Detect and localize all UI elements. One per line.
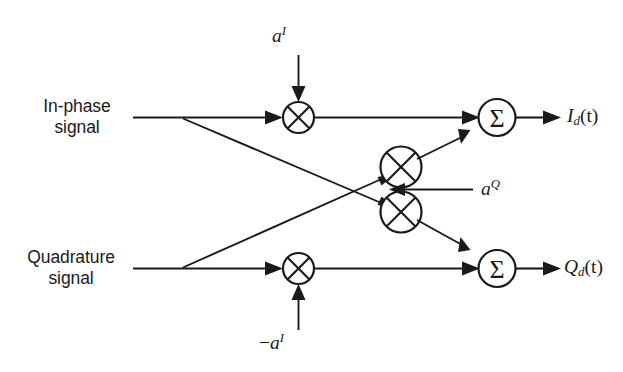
mixer-middle-upper-output-wire bbox=[417, 129, 471, 159]
in-phase-cross-branch-wire bbox=[183, 119, 396, 209]
coefficient-middle-superscript: Q bbox=[491, 177, 500, 191]
coefficient-top-base: a bbox=[272, 25, 282, 46]
mixer-bottom-left-output-wire bbox=[314, 262, 480, 276]
coefficient-bottom-base: a bbox=[270, 332, 280, 353]
output-bottom-wire bbox=[516, 262, 562, 276]
block-diagram-figure: Σ Σ In-phase signal Quadrature signal aI… bbox=[0, 0, 623, 372]
coefficient-bottom-sign: − bbox=[259, 332, 270, 353]
output-bottom-base: Q bbox=[564, 256, 578, 277]
in-phase-signal-label-line1: In-phase bbox=[23, 96, 131, 117]
quadrature-signal-label-line2: signal bbox=[10, 268, 132, 289]
coefficient-top-feed-wire bbox=[292, 55, 306, 102]
in-phase-input-wire bbox=[133, 111, 283, 125]
output-bottom-subscript: d bbox=[578, 265, 584, 279]
in-phase-signal-label: In-phase signal bbox=[23, 96, 131, 137]
mixer-top-left-output-wire bbox=[314, 111, 480, 125]
coefficient-middle-base: a bbox=[481, 178, 491, 199]
output-top-arg: (t) bbox=[580, 105, 598, 126]
quadrature-signal-label: Quadrature signal bbox=[10, 247, 132, 288]
coefficient-middle-feed-wire bbox=[389, 183, 473, 196]
diagram-canvas: Σ Σ bbox=[0, 0, 623, 372]
mixer-top-left[interactable] bbox=[283, 102, 314, 133]
mixer-middle-upper[interactable] bbox=[381, 147, 422, 188]
mixer-middle-lower-output-wire bbox=[417, 220, 471, 252]
quadrature-cross-branch-wire bbox=[183, 174, 396, 268]
coefficient-top-label: aI bbox=[272, 24, 286, 47]
quadrature-signal-label-line1: Quadrature bbox=[10, 247, 132, 268]
output-bottom-label: Qd(t) bbox=[564, 255, 603, 278]
sigma-glyph-top: Σ bbox=[489, 104, 504, 133]
summer-top[interactable]: Σ bbox=[479, 99, 516, 136]
output-top-label: Id(t) bbox=[567, 104, 598, 127]
output-bottom-arg: (t) bbox=[585, 256, 603, 277]
output-top-wire bbox=[516, 111, 562, 125]
in-phase-signal-label-line2: signal bbox=[23, 117, 131, 138]
coefficient-bottom-label: −aI bbox=[259, 331, 284, 354]
mixer-middle-lower[interactable] bbox=[381, 192, 422, 233]
coefficient-middle-label: aQ bbox=[481, 177, 500, 200]
coefficient-bottom-superscript: I bbox=[280, 331, 284, 345]
coefficient-bottom-feed-wire bbox=[292, 284, 306, 330]
output-top-subscript: d bbox=[574, 114, 580, 128]
coefficient-top-superscript: I bbox=[282, 24, 286, 38]
output-top-base: I bbox=[567, 105, 574, 126]
sigma-glyph-bottom: Σ bbox=[489, 255, 504, 284]
quadrature-input-wire bbox=[133, 262, 283, 276]
mixer-bottom-left[interactable] bbox=[283, 253, 314, 284]
summer-bottom[interactable]: Σ bbox=[479, 250, 516, 287]
